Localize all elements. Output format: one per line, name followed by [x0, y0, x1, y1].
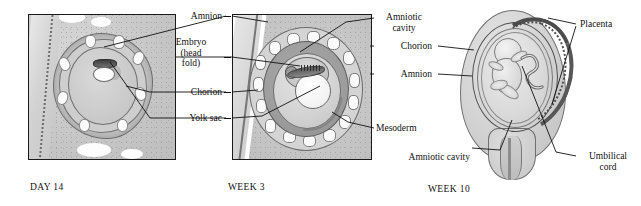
label-amnion-day14: Amnion [160, 11, 222, 22]
label-amniotic-cavity-week10: Amniotic cavity [392, 152, 470, 163]
stage-caption-week10: WEEK 10 [428, 184, 470, 194]
leader-dash [224, 118, 231, 119]
leader-dash [224, 92, 231, 93]
embryo [287, 63, 325, 79]
label-umbilical-cord: Umbilical cord [578, 151, 638, 172]
label-yolk-sac-day14: Yolk sac [154, 113, 222, 124]
lacuna [91, 17, 111, 27]
label-chorion-week10: Chorion [376, 41, 432, 52]
leader-dash [224, 57, 231, 58]
umbilical-cord-icon [452, 8, 572, 178]
panel-day14-image [28, 14, 176, 160]
villus-space [113, 35, 125, 49]
panel-week10-image [452, 8, 572, 178]
panel-week3-image [232, 14, 372, 160]
label-chorion-day14: Chorion [158, 87, 222, 98]
stage-caption-day14: DAY 14 [30, 182, 64, 192]
leader-dash [224, 16, 231, 17]
lacuna [121, 149, 143, 159]
embryonic-development-figure: Amnion Embryo (head fold) Chorion Yolk s… [0, 0, 641, 206]
villus-space [117, 119, 128, 132]
label-embryo-head-fold: Embryo (head fold) [160, 37, 222, 69]
lacuna [77, 143, 111, 157]
label-placenta: Placenta [580, 19, 640, 30]
villus-space [85, 35, 96, 48]
yolk-sac [93, 67, 115, 82]
villus-space [79, 119, 90, 132]
label-amnion-week10: Amnion [376, 69, 432, 80]
label-amniotic-cavity-week3: Amniotic cavity [376, 12, 432, 33]
stage-caption-week3: WEEK 3 [228, 182, 265, 192]
label-mesoderm-week3: Mesoderm [376, 123, 436, 134]
